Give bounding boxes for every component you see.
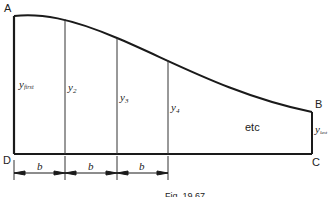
point-c-label: C [312,156,320,168]
curve-ab [14,15,312,112]
point-d-label: D [3,154,11,166]
spacing-label-2: b [88,160,94,172]
ordinate-last-label: ylast [314,123,328,135]
ordinate-4-label: y4 [170,101,180,115]
ordinate-2-label: y2 [67,81,77,95]
point-b-label: B [315,98,322,110]
spacing-label-3: b [139,160,145,172]
figure-caption: Fig. 19.67 [165,191,205,197]
ordinate-3-label: y3 [119,91,129,105]
point-a-label: A [4,2,12,14]
spacing-label-1: b [37,160,43,172]
ordinate-first-label: yfirst [18,78,34,90]
etc-label: etc [245,121,260,133]
irregular-area-diagram: A B C D yfirst y2 y3 y4 ylast etc b b b … [0,0,331,197]
